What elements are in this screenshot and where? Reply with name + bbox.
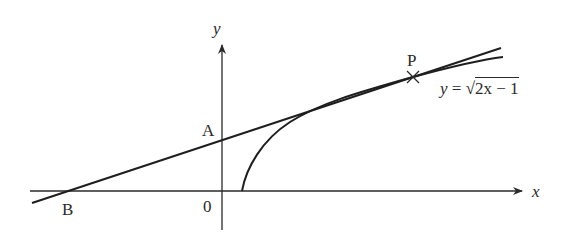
tangent-line (32, 48, 501, 203)
equation-equals: = (452, 79, 462, 98)
equation-lhs: y (440, 79, 448, 98)
equation-radicand: 2x − 1 (475, 77, 519, 98)
point-a-label: A (202, 122, 214, 139)
diagram-svg (0, 0, 579, 238)
point-p-marker-icon (407, 71, 419, 83)
diagram-canvas: y x 0 A B P y = √2x − 1 (0, 0, 579, 238)
origin-label: 0 (203, 198, 212, 215)
curve-equation-label: y = √2x − 1 (440, 80, 519, 97)
curve-sqrt-2x-minus-1 (242, 57, 503, 191)
x-axis-label: x (532, 183, 540, 200)
point-b-label: B (62, 201, 73, 218)
point-p-label: P (407, 52, 416, 69)
radical-sign-icon: √ (466, 79, 475, 98)
y-axis-label: y (213, 20, 221, 37)
